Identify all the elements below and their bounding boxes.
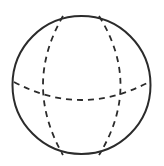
left-meridian-dashed [43, 16, 63, 155]
equator-dashed [14, 82, 149, 100]
sphere-svg [0, 0, 164, 166]
sphere-diagram [0, 0, 164, 166]
right-meridian-dashed [99, 16, 121, 155]
sphere-outline [13, 16, 151, 154]
